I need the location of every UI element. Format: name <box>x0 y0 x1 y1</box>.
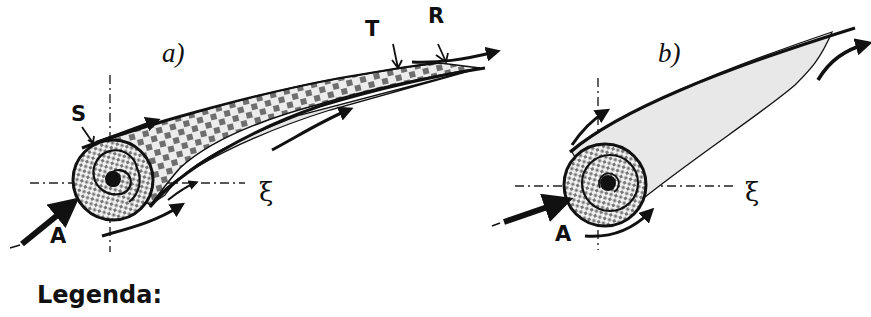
point-s-label: S <box>71 102 86 126</box>
point-a-label-a: A <box>50 224 66 248</box>
point-t-label: T <box>365 17 379 41</box>
pointer-s <box>82 127 94 143</box>
panel-a <box>10 44 495 252</box>
pointer-r <box>436 44 448 62</box>
arrow-r-a <box>412 52 495 62</box>
xi-label-b: ξ <box>745 177 759 207</box>
point-a-label-b: A <box>555 222 571 246</box>
arrow-incoming-b <box>504 202 562 222</box>
pointer-t <box>392 44 402 68</box>
arrow-a-tail-b <box>492 223 500 226</box>
vortex-core-a <box>105 171 121 187</box>
diagram-canvas <box>0 0 871 317</box>
figure: a) S T R A ξ b) A ξ Legenda: <box>0 0 871 317</box>
panel-a-label: a) <box>162 38 185 69</box>
arrow-tip-b <box>818 44 866 80</box>
point-r-label: R <box>428 4 444 28</box>
legend-title: Legenda: <box>37 281 162 309</box>
vortex-core-b <box>600 175 616 191</box>
xi-label-a: ξ <box>259 177 273 207</box>
arrow-a-a <box>10 245 20 248</box>
panel-b-label: b) <box>658 38 681 69</box>
